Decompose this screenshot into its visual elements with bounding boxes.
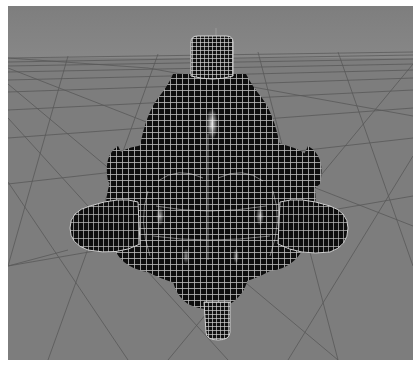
highlight-right (256, 206, 264, 226)
highlight-lower-right (233, 248, 239, 264)
top-cylinder[interactable] (191, 36, 233, 79)
highlight-lower-left (183, 248, 189, 264)
viewport-canvas[interactable] (8, 6, 413, 360)
highlight-top (206, 108, 218, 140)
3d-viewport[interactable] (8, 6, 413, 360)
highlight-left (156, 206, 164, 226)
bottom-cylinder[interactable] (204, 302, 230, 340)
